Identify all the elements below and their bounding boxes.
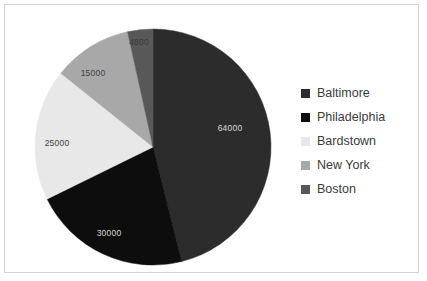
- legend-item-boston[interactable]: Boston: [301, 177, 419, 201]
- legend-swatch-icon-new-york: [301, 161, 310, 170]
- legend-label-boston: Boston: [317, 183, 356, 196]
- legend-item-new-york[interactable]: New York: [301, 153, 419, 177]
- chart-frame: 640003000025000150004800 Baltimore Phila…: [4, 4, 419, 273]
- legend-swatch-icon-baltimore: [301, 89, 310, 98]
- legend-item-baltimore[interactable]: Baltimore: [301, 81, 419, 105]
- pie-slice-value-label-boston: 4800: [129, 37, 149, 47]
- pie-slice-value-label-baltimore: 64000: [218, 123, 243, 133]
- legend-swatch-icon-philadelphia: [301, 113, 310, 122]
- legend-label-philadelphia: Philadelphia: [317, 111, 385, 124]
- legend-swatch-icon-boston: [301, 185, 310, 194]
- legend-label-bardstown: Bardstown: [317, 135, 376, 148]
- pie-slice-value-label-philadelphia: 30000: [97, 228, 122, 238]
- legend-label-new-york: New York: [317, 159, 370, 172]
- legend-label-baltimore: Baltimore: [317, 87, 370, 100]
- legend-swatch-icon-bardstown: [301, 137, 310, 146]
- chart-legend: Baltimore Philadelphia Bardstown New Yor…: [301, 81, 419, 201]
- legend-item-philadelphia[interactable]: Philadelphia: [301, 105, 419, 129]
- pie-chart-plot-area: 640003000025000150004800: [5, 5, 295, 274]
- pie-slice-value-label-new-york: 15000: [81, 68, 106, 78]
- pie-chart-svg: 640003000025000150004800: [5, 5, 295, 274]
- pie-slice-value-label-bardstown: 25000: [45, 138, 70, 148]
- legend-item-bardstown[interactable]: Bardstown: [301, 129, 419, 153]
